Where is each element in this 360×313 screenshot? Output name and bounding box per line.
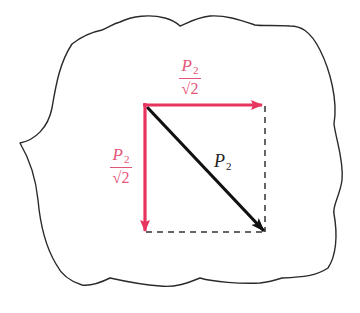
horizontal-component-label: P2 √2 xyxy=(179,57,201,97)
resultant-label: P2 xyxy=(214,152,232,172)
fraction-bar xyxy=(179,78,201,79)
free-body-diagram xyxy=(0,0,360,313)
vertical-label-denominator: √2 xyxy=(113,170,130,186)
horizontal-label-numerator: P2 xyxy=(181,57,200,77)
vertical-component-label: P2 √2 xyxy=(110,146,132,186)
horizontal-label-denominator: √2 xyxy=(182,81,199,97)
vertical-label-numerator: P2 xyxy=(112,146,131,166)
fraction-bar xyxy=(110,167,132,168)
